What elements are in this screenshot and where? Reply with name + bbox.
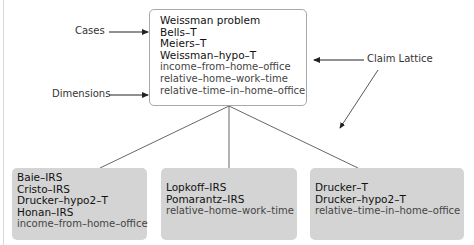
- child-node-1: Baie–IRS Cristo–IRS Drucker–hypo2–T Hona…: [12, 168, 147, 240]
- child-dimension: relative–time–in–home–office: [315, 205, 459, 217]
- child-case: Lopkoff–IRS: [166, 182, 292, 194]
- root-node: Weissman problem Bells–T Meiers–T Weissm…: [149, 9, 307, 106]
- dimensions-label: Dimensions: [52, 88, 110, 99]
- child-case: Pomarantz–IRS: [166, 194, 292, 206]
- child-case: Drucker–T: [315, 182, 459, 194]
- child-case: Honan–IRS: [17, 207, 142, 219]
- child-dimension: income–from–home–office: [17, 218, 142, 230]
- child-dimension: relative–home–work–time: [166, 205, 292, 217]
- edge-root-child1: [100, 106, 229, 168]
- child-node-2: Lopkoff–IRS Pomarantz–IRS relative–home–…: [161, 168, 297, 240]
- root-case: Weissman–hypo–T: [160, 50, 296, 62]
- claim-lattice-arrow-diagonal: [340, 70, 378, 128]
- child-node-3: Drucker–T Drucker–hypo2–T relative–time–…: [310, 168, 464, 240]
- root-dimension: relative–home–work–time: [160, 73, 296, 85]
- cases-label: Cases: [75, 25, 105, 36]
- child-case: Baie–IRS: [17, 172, 142, 184]
- claim-lattice-label: Claim Lattice: [367, 53, 433, 64]
- root-dimension: income–from–home–office: [160, 61, 296, 73]
- child-case: Drucker–hypo2–T: [315, 194, 459, 206]
- root-case: Weissman problem: [160, 15, 296, 27]
- root-dimension: relative–time–in–home–office: [160, 85, 296, 97]
- edge-root-child3: [229, 106, 358, 168]
